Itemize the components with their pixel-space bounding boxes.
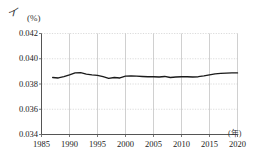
y-axis-tick-label: 0.040 <box>2 53 38 63</box>
line-chart <box>0 0 262 161</box>
x-axis-tick-label: 2020 <box>221 139 255 149</box>
y-axis-tick-label: 0.038 <box>2 79 38 89</box>
y-axis-tick-labels: 0.0340.0360.0380.0400.042 <box>0 0 38 161</box>
chart-background <box>0 0 262 161</box>
y-axis-tick-label: 0.042 <box>2 28 38 38</box>
x-axis-unit-label: (年) <box>228 127 241 138</box>
y-axis-tick-label: 0.034 <box>2 129 38 139</box>
y-axis-tick-label: 0.036 <box>2 104 38 114</box>
